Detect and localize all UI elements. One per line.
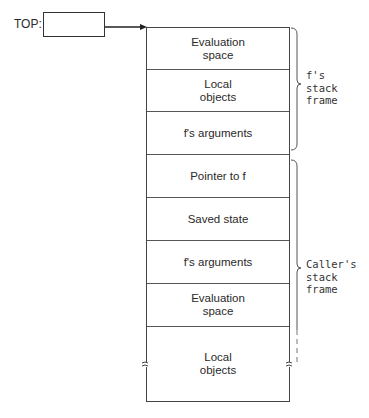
f-frame-label: f's stack frame bbox=[306, 69, 338, 107]
f-frame-brace-icon bbox=[291, 28, 301, 150]
top-arrow-icon bbox=[105, 24, 147, 30]
diagram-overlay bbox=[0, 0, 369, 418]
caller-frame-label: Caller's stack frame bbox=[306, 258, 357, 296]
caller-frame-brace-icon bbox=[291, 160, 301, 330]
break-mark-icon bbox=[142, 362, 293, 367]
